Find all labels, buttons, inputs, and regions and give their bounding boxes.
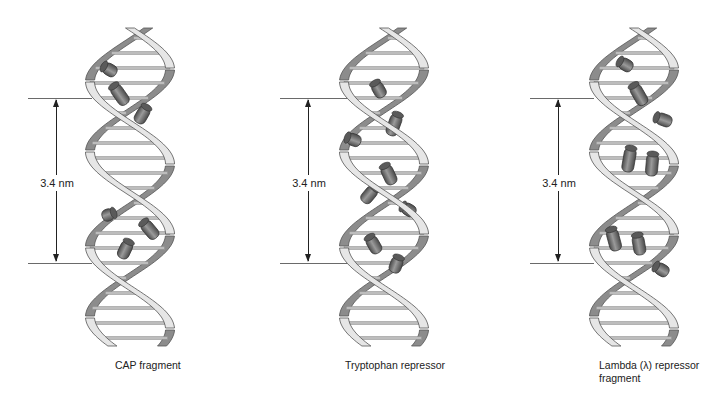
dna-helix-trp-icon xyxy=(334,0,444,350)
dna-helix-cap-icon xyxy=(80,0,190,350)
dna-helix-lambda-icon xyxy=(584,0,694,350)
panel-caption: Lambda (λ) repressor fragment xyxy=(599,359,699,385)
helix-pitch-label: 3.4 nm xyxy=(541,175,577,191)
